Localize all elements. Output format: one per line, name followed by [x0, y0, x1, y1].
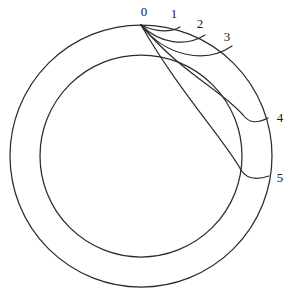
arc-label-3: 3 — [224, 29, 231, 44]
arc-label-5: 5 — [277, 170, 284, 185]
arc-label-2: 2 — [197, 16, 204, 31]
arc-label-1: 1 — [171, 6, 178, 21]
geodesic-arc-5 — [141, 25, 269, 178]
inner-boundary-circle — [40, 55, 242, 257]
arc-label-4: 4 — [277, 110, 284, 125]
annulus-figure: 0 1 2 3 4 5 — [0, 0, 295, 304]
geodesic-arc-4 — [141, 25, 268, 122]
arc-label-0: 0 — [141, 4, 148, 19]
geodesic-arc-2 — [141, 25, 205, 42]
diagram-canvas: 0 1 2 3 4 5 — [0, 0, 295, 304]
